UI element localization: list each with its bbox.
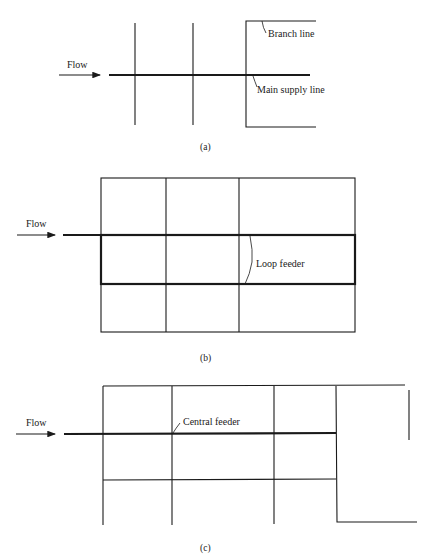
grid-line bbox=[336, 386, 417, 522]
main-supply-line-label: Main supply line bbox=[257, 84, 325, 95]
water-distribution-layouts-diagram: Flow Branch line Main supply line (a) Fl… bbox=[0, 0, 428, 554]
panel-c-central: Flow Central feeder (c) bbox=[16, 385, 417, 554]
grid-line bbox=[103, 385, 405, 386]
central-feeder bbox=[64, 433, 336, 434]
caption-c: (c) bbox=[200, 543, 211, 554]
flow-label-b: Flow bbox=[26, 218, 47, 229]
leader-line bbox=[245, 236, 252, 284]
panel-a-branching: Flow Branch line Main supply line (a) bbox=[59, 21, 325, 153]
loop-feeder-label: Loop feeder bbox=[256, 258, 305, 269]
caption-b: (b) bbox=[200, 353, 211, 364]
panel-b-loop: Flow Loop feeder (b) bbox=[17, 178, 355, 364]
flow-label-a: Flow bbox=[67, 59, 88, 70]
branch-line-label: Branch line bbox=[268, 28, 315, 39]
flow-label-c: Flow bbox=[26, 417, 47, 428]
leader-line bbox=[173, 423, 180, 433]
grid-line bbox=[103, 479, 336, 480]
grid-outline bbox=[101, 178, 355, 332]
loop-feeder bbox=[101, 235, 355, 284]
leader-line bbox=[262, 21, 266, 33]
central-feeder-label: Central feeder bbox=[183, 416, 241, 427]
caption-a: (a) bbox=[200, 142, 211, 153]
